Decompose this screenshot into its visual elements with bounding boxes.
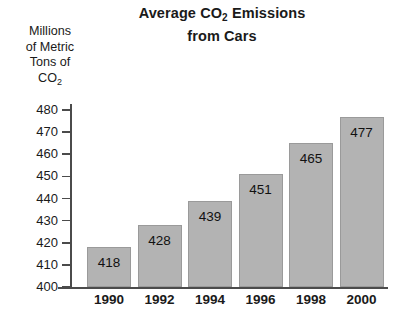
y-axis-title-line-1: Millions	[8, 24, 92, 40]
y-axis-tick	[62, 176, 71, 178]
y-axis-tick	[62, 242, 71, 244]
y-axis-tick	[62, 264, 71, 266]
y-axis-tick-label: 440	[26, 192, 58, 205]
bar-value-label: 439	[188, 210, 232, 224]
y-axis-tick	[62, 109, 71, 111]
x-axis-label: 1992	[134, 292, 186, 308]
y-axis-title-line-2: of Metric	[8, 40, 92, 56]
y-axis-tick-label: 470	[26, 125, 58, 138]
x-axis-label: 2000	[336, 292, 388, 308]
x-axis-label: 1998	[285, 292, 337, 308]
bar	[340, 117, 384, 287]
x-axis-line	[58, 287, 388, 289]
bar-chart: Average CO2 Emissions from Cars Millions…	[0, 0, 396, 329]
y-axis-tick	[62, 131, 71, 133]
y-axis-title-line-4: CO2	[8, 71, 92, 91]
x-axis-label: 1990	[83, 292, 135, 308]
y-axis-tick	[62, 220, 71, 222]
y-axis-tick-label: 460	[26, 147, 58, 160]
y-axis-tick-label: 410	[26, 258, 58, 271]
chart-title-line2: from Cars	[96, 27, 348, 45]
chart-title-text-pre: Average CO	[139, 5, 222, 21]
y-axis-tick-label: 420	[26, 236, 58, 249]
bar-value-label: 418	[87, 256, 131, 270]
bar-value-label: 465	[289, 152, 333, 166]
y-axis-tick-label: 450	[26, 169, 58, 182]
y-axis-tick	[62, 198, 71, 200]
y-axis-tick-label: 430	[26, 214, 58, 227]
x-axis-label: 1994	[184, 292, 236, 308]
y-axis-tick	[62, 286, 71, 288]
bar-value-label: 477	[340, 126, 384, 140]
bar-value-label: 451	[239, 183, 283, 197]
bar-value-label: 428	[138, 234, 182, 248]
y-axis-title: Millions of Metric Tons of CO2	[8, 24, 92, 90]
x-axis-label: 1996	[235, 292, 287, 308]
y-axis-title-subscript: 2	[57, 77, 62, 87]
chart-title-text-post: Emissions	[228, 5, 306, 21]
y-axis-title-line-3: Tons of	[8, 55, 92, 71]
chart-title: Average CO2 Emissions from Cars	[96, 4, 348, 45]
y-axis-tick-label: 400	[26, 280, 58, 293]
y-axis-title-co: CO	[38, 71, 57, 85]
y-axis-tick	[62, 153, 71, 155]
chart-title-line1: Average CO2 Emissions	[139, 5, 306, 21]
y-axis-tick-label: 480	[26, 103, 58, 116]
